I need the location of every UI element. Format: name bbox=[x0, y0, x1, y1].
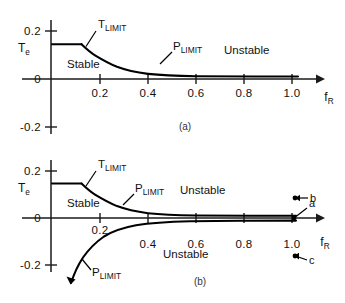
panel-b-marker-c-label: c bbox=[309, 254, 315, 266]
panel-a-label-t-limit-sub: LIMIT bbox=[105, 23, 126, 33]
panel-b-yticklabel-2: -0.2 bbox=[20, 259, 41, 271]
panel-b-y-axis-title: Te bbox=[18, 181, 30, 197]
panel-a-xticklabel-3: 0.8 bbox=[236, 87, 253, 99]
panel-b-x-axis-title-sub: R bbox=[324, 242, 330, 251]
panel-b-p-limit-upper-leader bbox=[123, 194, 134, 205]
panel-b-y-axis-title-sub: e bbox=[25, 188, 30, 197]
panel-b-region-unstable-lower: Unstable bbox=[163, 248, 208, 260]
panel-b-region-stable: Stable bbox=[67, 197, 100, 209]
panel-b-label-p-limit-lower: PLIMIT bbox=[92, 266, 121, 281]
panel-a-yticklabel-1: 0 bbox=[34, 73, 41, 85]
panel-a-label-p-limit-sub: LIMIT bbox=[181, 45, 202, 55]
panel-b-p-limit-lower-leader bbox=[82, 259, 91, 270]
panel-b-x-axis-arrow bbox=[316, 214, 325, 223]
panel-b-x-axis-title: fR bbox=[320, 235, 329, 251]
panel-b-xticklabel-3: 0.8 bbox=[236, 238, 253, 250]
panel-a-xticklabel-0: 0.2 bbox=[92, 87, 109, 99]
panel-a-p-limit-leader bbox=[160, 52, 172, 64]
panel-b-label-t-limit-main: T bbox=[98, 158, 105, 170]
panel-b-xticklabel-1: 0.4 bbox=[140, 238, 157, 250]
panel-a-t-limit-leader bbox=[86, 31, 96, 47]
panel-b-label-p-limit-upper: PLIMIT bbox=[135, 182, 164, 197]
panel-b-marker-a-leader bbox=[296, 208, 307, 217]
panel-a-region-stable: Stable bbox=[67, 58, 100, 70]
panel-b-marker-a-dot bbox=[292, 216, 297, 221]
panel-a-y-axis-title: Te bbox=[18, 41, 30, 57]
stability-diagram-svg: 0.2 0 -0.2 0.2 0.4 0.6 0.8 1.0 Te fR TLI… bbox=[0, 0, 345, 303]
panel-a-xticklabel-4: 1.0 bbox=[284, 87, 301, 99]
panel-b-yticklabel-1: 0 bbox=[34, 212, 41, 224]
panel-a-yticklabel-2: -0.2 bbox=[20, 121, 41, 133]
figure-container: 0.2 0 -0.2 0.2 0.4 0.6 0.8 1.0 Te fR TLI… bbox=[0, 0, 345, 303]
panel-b-xticklabel-4: 1.0 bbox=[284, 238, 301, 250]
panel-a: 0.2 0 -0.2 0.2 0.4 0.6 0.8 1.0 Te fR TLI… bbox=[18, 18, 334, 134]
panel-a-yticklabel-0: 0.2 bbox=[24, 25, 41, 37]
panel-a-label-t-limit: TLIMIT bbox=[98, 18, 126, 33]
panel-a-label-t-limit-main: T bbox=[98, 18, 105, 30]
panel-b-label-p-limit-upper-sub: LIMIT bbox=[143, 187, 164, 197]
panel-a-y-axis-title-sub: e bbox=[25, 48, 30, 57]
panel-b-t-limit-leader bbox=[86, 171, 96, 186]
panel-b-marker-b: b bbox=[293, 192, 317, 204]
panel-b-region-unstable-upper: Unstable bbox=[180, 184, 225, 196]
panel-b-caption: (b) bbox=[194, 276, 206, 287]
panel-b-marker-b-label: b bbox=[310, 192, 316, 204]
panel-a-x-axis-title-sub: R bbox=[328, 97, 334, 106]
panel-a-x-axis-title: fR bbox=[324, 90, 333, 106]
panel-b-marker-c: c bbox=[293, 253, 315, 266]
panel-b: 0.2 0 -0.2 0.2 0.4 0.6 0.8 1.0 Te fR bbox=[18, 158, 330, 287]
panel-b-label-p-limit-lower-sub: LIMIT bbox=[100, 271, 121, 281]
panel-a-xticklabel-2: 0.6 bbox=[188, 87, 205, 99]
panel-b-curve-p-limit-lower-arrow bbox=[67, 277, 76, 285]
panel-a-region-unstable: Unstable bbox=[224, 44, 269, 56]
panel-b-yticklabel-0: 0.2 bbox=[24, 165, 41, 177]
panel-b-label-t-limit: TLIMIT bbox=[98, 158, 126, 173]
panel-a-label-p-limit: PLIMIT bbox=[173, 40, 202, 55]
panel-a-caption: (a) bbox=[179, 121, 191, 132]
panel-a-x-axis-arrow bbox=[316, 75, 325, 84]
panel-a-xticklabel-1: 0.4 bbox=[140, 87, 157, 99]
panel-b-label-t-limit-sub: LIMIT bbox=[105, 163, 126, 173]
